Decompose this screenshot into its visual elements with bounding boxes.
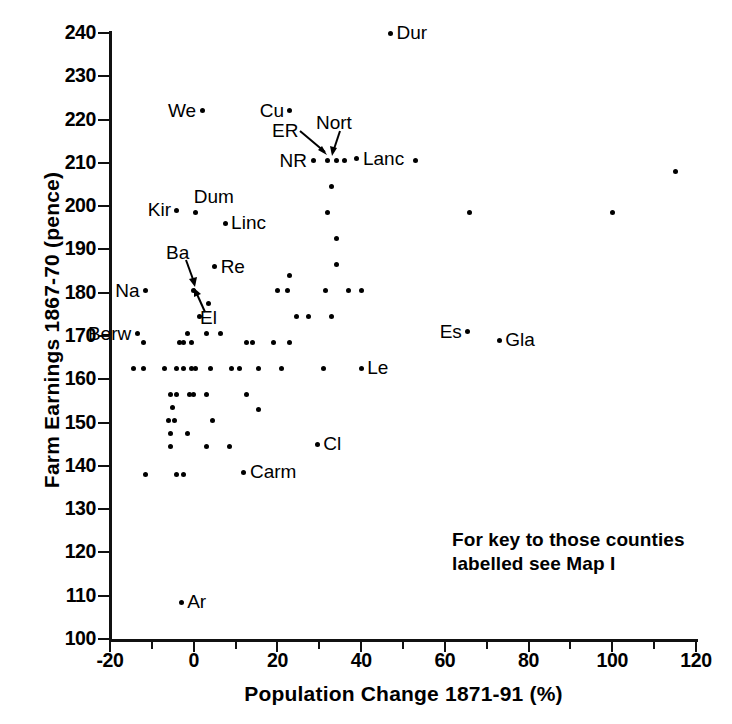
data-point: [174, 366, 179, 371]
data-point-label: Le: [367, 358, 388, 377]
data-point: [497, 338, 502, 343]
data-point: [256, 366, 261, 371]
y-tick-label: 100: [38, 629, 96, 649]
data-point-label: Linc: [231, 213, 266, 232]
data-point: [241, 470, 246, 475]
data-point: [143, 472, 148, 477]
data-point: [610, 210, 615, 215]
data-point: [193, 366, 198, 371]
y-tick-mark: [98, 551, 109, 553]
data-point: [673, 169, 678, 174]
x-minor-tick-mark: [486, 641, 488, 649]
data-point-label: Cl: [323, 434, 341, 453]
data-point: [208, 366, 213, 371]
data-point: [210, 418, 215, 423]
x-minor-tick-mark: [318, 641, 320, 649]
data-point: [271, 340, 276, 345]
data-point: [244, 392, 249, 397]
data-point: [131, 366, 136, 371]
data-point: [181, 340, 186, 345]
data-point: [191, 288, 196, 293]
data-point: [256, 407, 261, 412]
x-tick-label: 40: [331, 651, 391, 671]
data-point: [168, 444, 173, 449]
data-point-label: NR: [0, 151, 307, 170]
data-point: [285, 288, 290, 293]
scatter-plot-figure: 1001101201301401501601701801902002102202…: [0, 0, 732, 724]
y-tick-mark: [98, 248, 109, 250]
data-point: [287, 273, 292, 278]
data-point: [141, 366, 146, 371]
y-tick-mark: [98, 465, 109, 467]
data-point: [311, 158, 316, 163]
data-point-label: ER: [272, 121, 298, 140]
data-point-label: Gla: [505, 330, 535, 349]
data-point: [334, 262, 339, 267]
key-note-text: For key to those counties labelled see M…: [452, 528, 685, 577]
data-point: [212, 264, 217, 269]
data-point-label: Ba: [166, 243, 189, 262]
data-point: [166, 418, 171, 423]
data-point-label: Na: [0, 281, 140, 300]
data-point: [359, 288, 364, 293]
data-point: [174, 392, 179, 397]
data-point: [179, 600, 184, 605]
data-point: [193, 210, 198, 215]
data-point: [170, 405, 175, 410]
data-point-label: Es: [0, 322, 462, 341]
data-point-label: Dum: [194, 187, 234, 206]
x-minor-tick-mark: [151, 641, 153, 649]
data-point: [162, 366, 167, 371]
y-tick-mark: [98, 75, 109, 77]
data-point: [174, 208, 179, 213]
data-point: [204, 392, 209, 397]
data-point: [204, 444, 209, 449]
data-point: [325, 158, 330, 163]
x-minor-tick-mark: [653, 641, 655, 649]
data-point: [227, 444, 232, 449]
y-tick-mark: [98, 508, 109, 510]
data-point: [168, 392, 173, 397]
data-point: [141, 340, 146, 345]
x-minor-tick-mark: [402, 641, 404, 649]
data-point: [275, 288, 280, 293]
data-point: [229, 366, 234, 371]
data-point: [181, 366, 186, 371]
data-point-label: Cu: [0, 101, 284, 120]
data-point: [315, 442, 320, 447]
data-point: [279, 366, 284, 371]
x-tick-label: 100: [582, 651, 642, 671]
data-point-label: Ar: [187, 592, 206, 611]
y-tick-label: 240: [38, 23, 96, 43]
data-point: [342, 158, 347, 163]
data-point: [185, 431, 190, 436]
data-point: [287, 108, 292, 113]
data-point: [244, 340, 249, 345]
data-point: [388, 31, 393, 36]
x-minor-tick-mark: [235, 641, 237, 649]
y-tick-mark: [98, 32, 109, 34]
data-point: [172, 418, 177, 423]
x-minor-tick-mark: [569, 641, 571, 649]
data-point-label: Lanc: [363, 149, 404, 168]
data-point: [206, 301, 211, 306]
data-point: [346, 288, 351, 293]
data-point-label: Kir: [0, 200, 171, 219]
data-point: [467, 210, 472, 215]
y-tick-mark: [98, 638, 109, 640]
data-point: [413, 158, 418, 163]
data-point-label: Nort: [316, 113, 352, 132]
data-point-label: Dur: [396, 23, 427, 42]
data-point: [306, 314, 311, 319]
x-axis-title: Population Change 1871-91 (%): [109, 682, 698, 706]
data-point: [321, 366, 326, 371]
data-point: [181, 472, 186, 477]
data-point: [294, 314, 299, 319]
data-point: [334, 236, 339, 241]
data-point-label: Carm: [250, 462, 296, 481]
data-point: [334, 158, 339, 163]
data-point: [354, 156, 359, 161]
data-point: [287, 340, 292, 345]
data-point-label: Re: [221, 257, 245, 276]
x-tick-label: 20: [247, 651, 307, 671]
